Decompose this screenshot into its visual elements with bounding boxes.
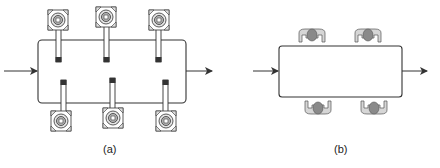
panel-b xyxy=(253,29,427,114)
worker-top-1 xyxy=(299,29,325,42)
worker-bottom-1 xyxy=(305,101,331,114)
caption-b: (b) xyxy=(334,143,347,155)
worker-bottom-2 xyxy=(361,101,387,114)
panel-a xyxy=(4,7,212,131)
process-box-b xyxy=(279,46,402,97)
caption-a: (a) xyxy=(103,143,116,155)
diagram xyxy=(0,0,440,168)
worker-top-2 xyxy=(355,29,381,42)
